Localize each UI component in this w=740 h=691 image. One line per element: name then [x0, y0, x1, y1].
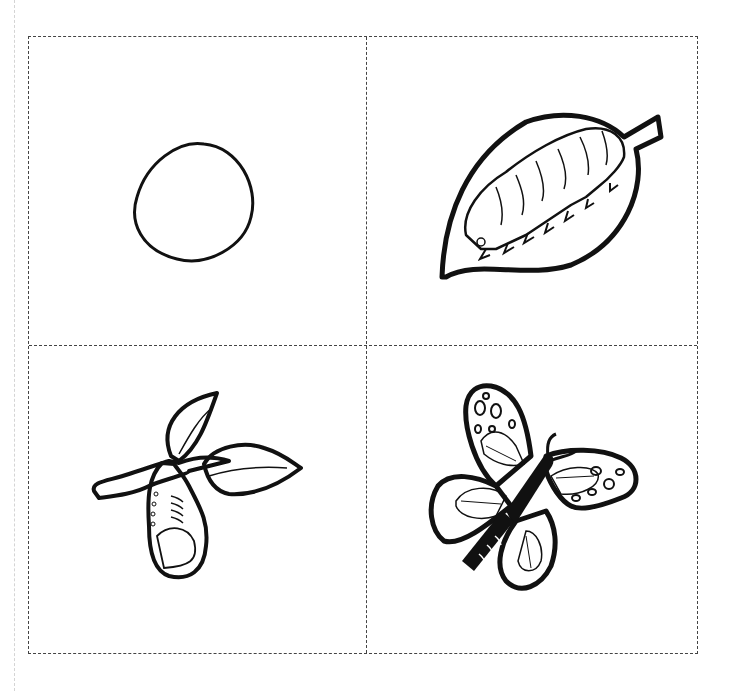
butterfly-icon	[366, 346, 698, 654]
card-caterpillar	[366, 37, 698, 345]
card-egg	[29, 37, 365, 345]
egg-icon	[29, 37, 365, 345]
caterpillar-icon	[366, 37, 698, 345]
card-butterfly	[366, 346, 698, 654]
margin-fold-line	[14, 0, 15, 691]
card-chrysalis	[29, 346, 365, 654]
chrysalis-icon	[29, 346, 365, 654]
